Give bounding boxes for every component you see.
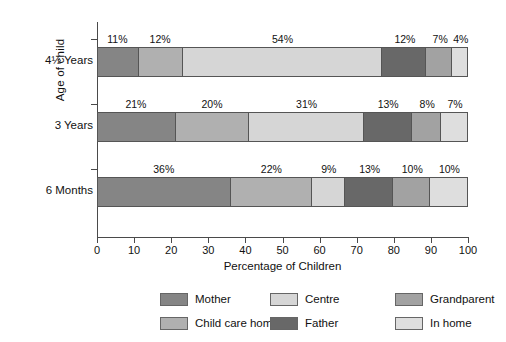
- x-tick-label: 80: [379, 244, 409, 256]
- y-tick-mark: [91, 39, 97, 40]
- x-axis-title: Percentage of Children: [97, 260, 468, 272]
- legend-item-child-care-home[interactable]: Child care home: [160, 317, 270, 330]
- bar-segment-label: 9%: [312, 162, 345, 176]
- bar-value-labels: 36%22%9%13%10%10%: [97, 162, 468, 176]
- x-tick-label: 100: [453, 244, 483, 256]
- stacked-bar-chart: Age of child 11%12%54%12%7%4%21%20%31%13…: [0, 0, 506, 342]
- bar-segment-label: 54%: [182, 32, 382, 46]
- x-tick-mark: [171, 237, 172, 243]
- bar-segment-label: 7%: [442, 97, 468, 111]
- bar-segment-label: 12%: [383, 32, 428, 46]
- bar-segment-label: 36%: [97, 162, 231, 176]
- stacked-bar: [97, 112, 468, 142]
- x-tick-label: 30: [193, 244, 223, 256]
- bar-segment-grandparent: [393, 178, 430, 206]
- y-axis-category-label: 3 Years: [0, 119, 93, 131]
- bar-segment-label: 21%: [97, 97, 175, 111]
- bar-row: [97, 112, 468, 142]
- legend-item-mother[interactable]: Mother: [160, 293, 270, 306]
- bar-segment-label: 12%: [138, 32, 183, 46]
- legend-label: Child care home: [195, 317, 279, 329]
- bar-segment-label: 22%: [231, 162, 313, 176]
- legend-item-centre[interactable]: Centre: [270, 293, 395, 306]
- y-axis-category-label: 4½ Years: [0, 54, 93, 66]
- x-tick-mark: [283, 237, 284, 243]
- x-tick-label: 90: [416, 244, 446, 256]
- y-tick-mark: [91, 169, 97, 170]
- bar-value-labels: 21%20%31%13%8%7%: [97, 97, 468, 111]
- bar-segment-centre: [249, 113, 363, 141]
- x-tick-mark: [394, 237, 395, 243]
- legend-label: Grandparent: [430, 293, 495, 305]
- x-tick-mark: [134, 237, 135, 243]
- bar-segment-child-care-home: [176, 113, 250, 141]
- x-tick-label: 70: [342, 244, 372, 256]
- bar-segment-label: 10%: [394, 162, 431, 176]
- x-tick-mark: [357, 237, 358, 243]
- x-tick-mark: [468, 237, 469, 243]
- bar-segment-label: 13%: [364, 97, 412, 111]
- legend-label: In home: [430, 317, 472, 329]
- y-axis-category-label: 6 Months: [0, 184, 93, 196]
- bar-segment-mother: [98, 113, 176, 141]
- bar-segment-father: [364, 113, 412, 141]
- y-tick-mark: [91, 104, 97, 105]
- bar-segment-label: 13%: [346, 162, 394, 176]
- x-tick-label: 60: [305, 244, 335, 256]
- legend-swatch-icon: [270, 317, 298, 330]
- bar-segment-mother: [98, 48, 139, 76]
- bar-segment-mother: [98, 178, 231, 206]
- x-tick-label: 10: [119, 244, 149, 256]
- bar-segment-in-home: [430, 178, 467, 206]
- bar-segment-label: 8%: [412, 97, 442, 111]
- plot-area: 11%12%54%12%7%4%21%20%31%13%8%7%36%22%9%…: [97, 22, 468, 236]
- bar-segment-father: [345, 178, 393, 206]
- legend-swatch-icon: [160, 293, 188, 306]
- bar-value-labels: 11%12%54%12%7%4%: [97, 32, 468, 46]
- legend-swatch-icon: [395, 317, 423, 330]
- bar-segment-label: 4%: [453, 32, 468, 46]
- bar-segment-label: 7%: [427, 32, 453, 46]
- x-tick-label: 0: [82, 244, 112, 256]
- bar-segment-grandparent: [412, 113, 442, 141]
- bar-segment-centre: [183, 48, 382, 76]
- x-tick-mark: [320, 237, 321, 243]
- x-tick-label: 20: [156, 244, 186, 256]
- legend-swatch-icon: [270, 293, 298, 306]
- bar-row: [97, 177, 468, 207]
- bar-segment-label: 10%: [431, 162, 468, 176]
- legend-item-grandparent[interactable]: Grandparent: [395, 293, 495, 306]
- bar-segment-label: 20%: [175, 97, 249, 111]
- x-tick-mark: [431, 237, 432, 243]
- bar-segment-in-home: [441, 113, 467, 141]
- bar-row: [97, 47, 468, 77]
- legend-swatch-icon: [160, 317, 188, 330]
- stacked-bar: [97, 177, 468, 207]
- stacked-bar: [97, 47, 468, 77]
- bar-segment-child-care-home: [231, 178, 312, 206]
- bar-segment-child-care-home: [139, 48, 183, 76]
- y-axis-title: Age of child: [54, 10, 74, 130]
- chart-legend: MotherCentreGrandparentChild care homeFa…: [160, 287, 490, 335]
- legend-label: Mother: [195, 293, 231, 305]
- legend-item-in-home[interactable]: In home: [395, 317, 495, 330]
- legend-label: Centre: [305, 293, 340, 305]
- bar-segment-label: 11%: [97, 32, 138, 46]
- x-tick-label: 40: [230, 244, 260, 256]
- x-tick-mark: [97, 237, 98, 243]
- bar-segment-father: [382, 48, 426, 76]
- x-tick-mark: [245, 237, 246, 243]
- x-tick-label: 50: [268, 244, 298, 256]
- legend-item-father[interactable]: Father: [270, 317, 395, 330]
- legend-swatch-icon: [395, 293, 423, 306]
- x-tick-mark: [208, 237, 209, 243]
- bar-segment-grandparent: [426, 48, 452, 76]
- bar-segment-label: 31%: [249, 97, 364, 111]
- bar-segment-in-home: [452, 48, 467, 76]
- legend-label: Father: [305, 317, 338, 329]
- bar-segment-centre: [312, 178, 345, 206]
